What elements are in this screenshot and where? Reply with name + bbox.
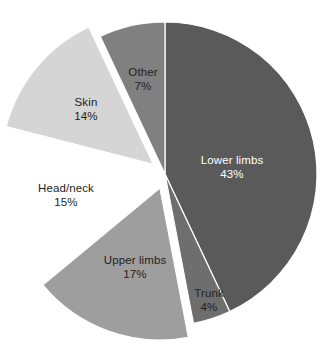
pie-slice-group bbox=[6, 22, 317, 340]
pie-chart: Lower limbs 43% Trunk 4% Upper limbs 17%… bbox=[0, 0, 333, 345]
pie-chart-svg bbox=[0, 0, 333, 345]
pie-slice-upper-limbs bbox=[43, 188, 189, 340]
